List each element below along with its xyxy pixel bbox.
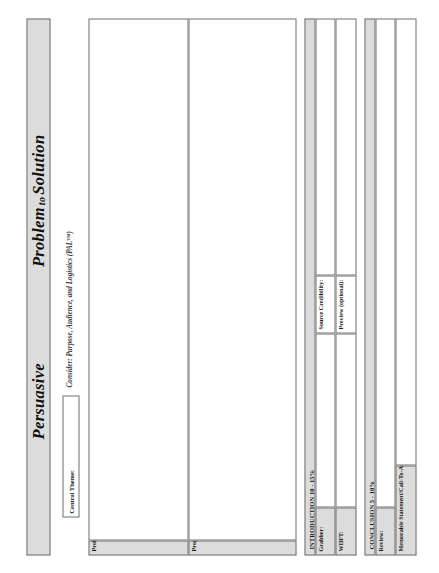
grabber-input[interactable] <box>315 333 335 507</box>
introduction-section: INTRODUCTION 10 - 15% Grabber: Source Cr… <box>304 18 356 555</box>
introduction-heading: INTRODUCTION 10 - 15% <box>307 469 314 549</box>
problem-definition-input[interactable] <box>88 18 188 540</box>
central-theme-label: Central Theme: <box>67 470 74 513</box>
review-label-cell: Review: <box>375 507 395 555</box>
memorable-statement-input[interactable] <box>395 18 416 465</box>
memorable-statement-label-cell: Memorable Statement/Call-To-Action: <box>395 465 416 555</box>
conclusion-heading: CONCLUSION 5 - 10% <box>367 481 374 549</box>
wiift-label-cell: WIIFT: <box>335 507 356 555</box>
page-title-connector: to <box>35 194 46 206</box>
problem-definition-label-cell: Problem Definition: <box>88 540 188 555</box>
review-input[interactable] <box>375 18 395 507</box>
source-credibility-label: Source Credibility: <box>317 279 324 329</box>
proposed-solution-input[interactable] <box>188 18 296 540</box>
introduction-heading-band: INTRODUCTION 10 - 15% <box>304 18 315 555</box>
page-title-pattern: ProblemtoSolution <box>28 134 48 266</box>
worksheet-page: Persuasive ProblemtoSolution Central The… <box>0 0 439 573</box>
review-label: Review: <box>377 530 384 551</box>
preview-label: Preview (optional): <box>337 279 344 329</box>
body-section: Problem Definition: Proposed Solution & … <box>88 18 296 555</box>
page-title-problem: Problem <box>28 207 47 267</box>
wiift-input[interactable] <box>335 333 356 507</box>
conclusion-section: CONCLUSION 5 - 10% Review: Memorable Sta… <box>364 18 416 555</box>
memorable-statement-label: Memorable Statement/Call-To-Action: <box>397 451 404 551</box>
grabber-label: Grabber: <box>317 526 324 551</box>
preview-label-cell: Preview (optional): <box>335 275 356 333</box>
central-theme-field[interactable]: Central Theme: <box>62 395 79 517</box>
wiift-label: WIIFT: <box>337 531 344 551</box>
preview-input[interactable] <box>335 18 356 275</box>
page-title-persuasive: Persuasive <box>28 363 48 439</box>
grabber-label-cell: Grabber: <box>315 507 335 555</box>
conclusion-heading-band: CONCLUSION 5 - 10% <box>364 18 375 555</box>
worksheet-sheet: Persuasive ProblemtoSolution Central The… <box>26 18 416 555</box>
page-title-solution: Solution <box>28 134 47 194</box>
proposed-solution-label-cell: Proposed Solution & Proof: <box>188 540 296 555</box>
source-credibility-label-cell: Source Credibility: <box>315 275 335 333</box>
source-credibility-input[interactable] <box>315 18 335 275</box>
pal-subtitle: Consider: Purpose, Audience, and Logisti… <box>65 231 73 387</box>
worksheet-title-band: Persuasive ProblemtoSolution <box>26 18 50 555</box>
